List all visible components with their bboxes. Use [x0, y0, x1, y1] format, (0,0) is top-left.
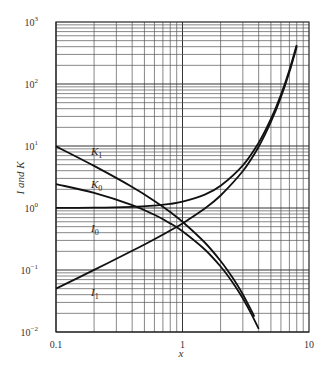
curve-k1: [56, 146, 254, 316]
label-i0: I0: [90, 222, 99, 237]
bessel-chart: 0.111010−210−1100101102103 I0I1K0K1 x I …: [0, 0, 331, 379]
label-k0: K0: [90, 178, 102, 193]
label-i1: I1: [90, 286, 99, 301]
y-tick-label: 103: [25, 15, 39, 28]
x-axis-label: x: [178, 347, 184, 359]
y-tick-label: 102: [25, 77, 39, 90]
y-tick-label: 10−1: [21, 263, 39, 276]
x-tick-label: 10: [304, 339, 314, 350]
y-tick-label: 100: [25, 201, 39, 214]
curve-i1: [56, 47, 297, 289]
label-k1: K1: [90, 145, 102, 160]
y-tick-label: 101: [25, 139, 39, 152]
y-tick-label: 10−2: [21, 325, 39, 338]
x-tick-label: 0.1: [50, 339, 63, 350]
y-axis-label: I and K: [14, 161, 26, 196]
